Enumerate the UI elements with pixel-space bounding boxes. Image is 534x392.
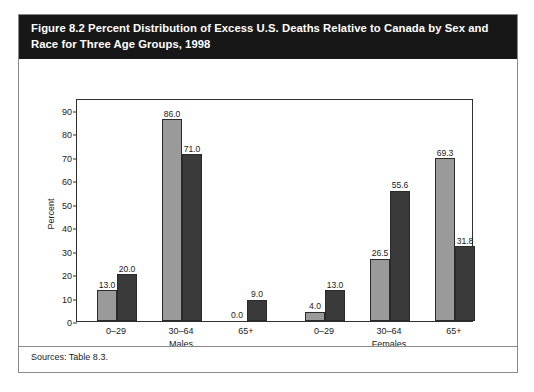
bar-whites-3: 4.0 bbox=[305, 312, 325, 321]
y-axis-tick-label: 60 bbox=[62, 177, 72, 187]
bar-value-label: 20.0 bbox=[119, 264, 136, 274]
bar-whites-1: 86.0 bbox=[162, 119, 182, 321]
bar-value-label: 69.3 bbox=[437, 148, 454, 158]
y-axis-tick-label: 80 bbox=[62, 130, 72, 140]
y-axis-tick-mark bbox=[73, 323, 77, 324]
x-axis-tick-label: 0–29 bbox=[314, 326, 334, 336]
x-axis-group-label: Males bbox=[169, 339, 193, 349]
bar-value-label: 0.0 bbox=[231, 310, 243, 320]
bar-nonwhites-1: 71.0 bbox=[182, 154, 202, 321]
bar-value-label: 26.5 bbox=[372, 248, 389, 258]
y-axis-tick-mark bbox=[73, 276, 77, 277]
x-axis-group-label: Females bbox=[372, 339, 407, 349]
bar-value-label: 9.0 bbox=[251, 289, 263, 299]
bar-value-label: 31.8 bbox=[457, 236, 474, 246]
y-axis-tick-label: 50 bbox=[62, 201, 72, 211]
y-axis-tick-label: 0 bbox=[67, 318, 72, 328]
bar-nonwhites-2: 9.0 bbox=[247, 300, 267, 321]
x-axis-tick-label: 65+ bbox=[446, 326, 461, 336]
y-axis-tick-mark bbox=[73, 229, 77, 230]
x-axis-tick-label: 30–64 bbox=[168, 326, 193, 336]
bar-nonwhites-5: 31.8 bbox=[455, 246, 475, 321]
x-axis-tick-label: 30–64 bbox=[376, 326, 401, 336]
y-axis-tick-label: 40 bbox=[62, 224, 72, 234]
bar-value-label: 13.0 bbox=[327, 280, 344, 290]
y-axis-tick-label: 10 bbox=[62, 295, 72, 305]
bar-nonwhites-4: 55.6 bbox=[390, 191, 410, 322]
y-axis-tick-label: 90 bbox=[62, 107, 72, 117]
y-axis-tick-mark bbox=[73, 158, 77, 159]
figure-card: Figure 8.2 Percent Distribution of Exces… bbox=[18, 14, 518, 373]
bar-value-label: 86.0 bbox=[164, 109, 181, 119]
y-axis-tick-mark bbox=[73, 111, 77, 112]
y-axis-tick-label: 20 bbox=[62, 271, 72, 281]
bar-value-label: 4.0 bbox=[309, 301, 321, 311]
bar-nonwhites-3: 13.0 bbox=[325, 290, 345, 321]
bar-whites-0: 13.0 bbox=[97, 290, 117, 321]
y-axis-tick-mark bbox=[73, 205, 77, 206]
plot-frame: 0102030405060708090 13.020.086.071.00.09… bbox=[76, 99, 473, 322]
figure-title: Figure 8.2 Percent Distribution of Exces… bbox=[31, 21, 505, 52]
bar-value-label: 71.0 bbox=[184, 144, 201, 154]
source-note: Sources: Table 8.3. bbox=[31, 352, 108, 362]
bar-whites-5: 69.3 bbox=[435, 158, 455, 321]
y-axis-title: Percent bbox=[46, 174, 56, 254]
bar-value-label: 13.0 bbox=[99, 280, 116, 290]
x-axis-tick-label: 0–29 bbox=[106, 326, 126, 336]
bar-value-label: 55.6 bbox=[392, 180, 409, 190]
bar-nonwhites-0: 20.0 bbox=[117, 274, 137, 321]
y-axis-tick-mark bbox=[73, 299, 77, 300]
figure-title-bar: Figure 8.2 Percent Distribution of Exces… bbox=[19, 15, 517, 59]
y-axis-tick-label: 30 bbox=[62, 248, 72, 258]
bar-whites-4: 26.5 bbox=[370, 259, 390, 321]
y-axis-tick-mark bbox=[73, 182, 77, 183]
y-axis-tick-mark bbox=[73, 135, 77, 136]
y-axis-tick-mark bbox=[73, 252, 77, 253]
x-axis-tick-label: 65+ bbox=[238, 326, 253, 336]
plot-area: Percent Whites Non-whites 01020304050607… bbox=[19, 59, 519, 346]
y-axis-tick-label: 70 bbox=[62, 154, 72, 164]
source-divider bbox=[19, 346, 517, 347]
